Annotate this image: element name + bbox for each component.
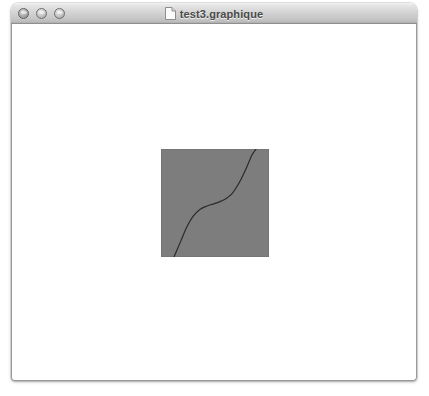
document-icon [165, 7, 176, 20]
s-curve-plot [161, 149, 269, 257]
application-window: test3.graphique [11, 3, 417, 381]
window-controls [18, 8, 65, 19]
close-button[interactable] [18, 8, 29, 19]
window-titlebar[interactable]: test3.graphique [11, 3, 417, 24]
zoom-button[interactable] [54, 8, 65, 19]
window-title-area: test3.graphique [11, 3, 417, 24]
window-content-canvas [11, 24, 417, 381]
minimize-button[interactable] [36, 8, 47, 19]
window-title: test3.graphique [180, 8, 263, 20]
